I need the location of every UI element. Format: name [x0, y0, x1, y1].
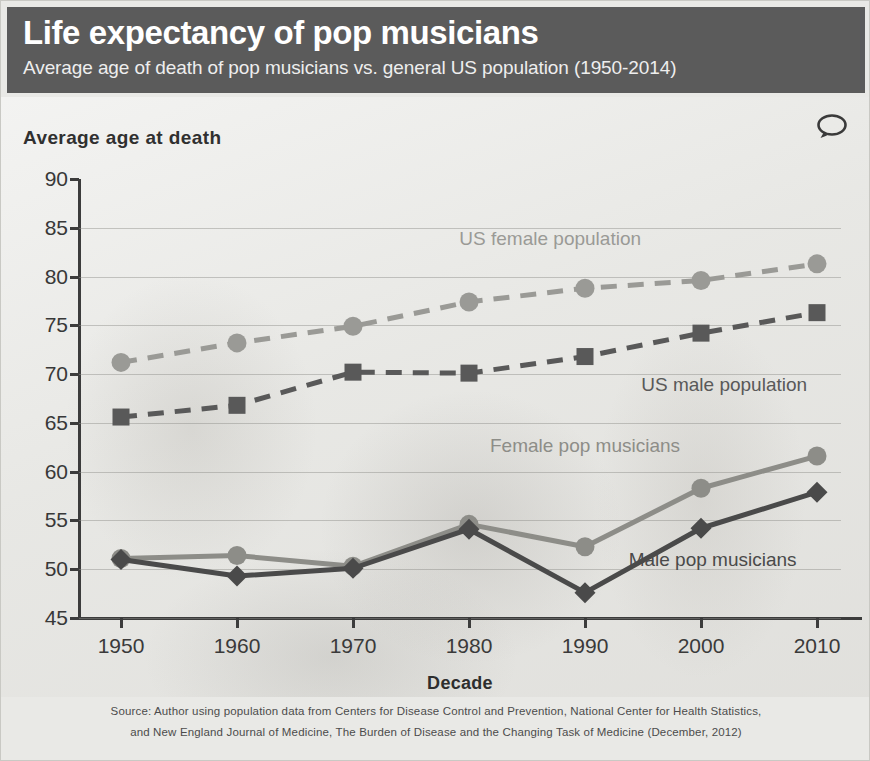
x-tick-label: 2000 [678, 634, 725, 658]
circle-marker [808, 447, 827, 466]
header-banner: Life expectancy of pop musicians Average… [7, 7, 865, 93]
square-marker [693, 325, 710, 342]
y-tick-label: 80 [45, 265, 68, 289]
x-tick-mark [584, 618, 587, 628]
y-tick-label: 85 [45, 216, 68, 240]
x-tick-label: 1970 [330, 634, 377, 658]
diamond-marker [575, 582, 596, 603]
x-tick-mark [700, 618, 703, 628]
circle-marker [344, 317, 363, 336]
square-marker [577, 348, 594, 365]
source-note: Source: Author using population data fro… [1, 701, 870, 743]
y-tick-mark [70, 617, 79, 620]
x-tick-label: 2010 [794, 634, 841, 658]
y-axis-label: Average age at death [23, 127, 221, 149]
circle-marker [692, 479, 711, 498]
series-us-male-population [113, 304, 826, 425]
chart-infographic: Life expectancy of pop musicians Average… [0, 0, 870, 761]
speech-bubble-icon[interactable] [815, 113, 849, 139]
page-subtitle: Average age of death of pop musicians vs… [23, 53, 849, 83]
gridline [79, 618, 841, 619]
circle-marker [576, 537, 595, 556]
series-line [121, 264, 817, 363]
y-tick-label: 75 [45, 313, 68, 337]
circle-marker [460, 292, 479, 311]
x-tick-label: 1980 [446, 634, 493, 658]
source-line-2: and New England Journal of Medicine, The… [19, 722, 853, 743]
plot-region: 45505560657075808590 1950196019701980199… [79, 179, 841, 618]
diamond-marker [111, 549, 132, 570]
y-tick-mark [70, 471, 79, 474]
y-tick-mark [70, 178, 79, 181]
y-tick-label: 70 [45, 362, 68, 386]
y-tick-mark [70, 519, 79, 522]
x-tick-label: 1950 [98, 634, 145, 658]
square-marker [809, 304, 826, 321]
circle-marker [576, 279, 595, 298]
series-label: Female pop musicians [490, 435, 680, 457]
circle-marker [112, 353, 131, 372]
circle-marker [808, 254, 827, 273]
x-tick-mark [120, 618, 123, 628]
y-tick-label: 55 [45, 508, 68, 532]
y-tick-mark [70, 373, 79, 376]
y-tick-mark [70, 324, 79, 327]
series-label: US male population [641, 374, 807, 396]
diamond-marker [227, 566, 248, 587]
y-tick-mark [70, 276, 79, 279]
x-tick-mark [468, 618, 471, 628]
series-label: US female population [459, 228, 641, 250]
chart-area: Average age at death 4550556065707580859… [1, 97, 870, 697]
square-marker [461, 365, 478, 382]
x-axis-label: Decade [79, 673, 841, 694]
square-marker [113, 409, 130, 426]
y-tick-mark [70, 568, 79, 571]
y-tick-label: 45 [45, 606, 68, 630]
x-tick-mark [352, 618, 355, 628]
y-tick-mark [70, 422, 79, 425]
square-marker [229, 397, 246, 414]
series-us-female-population [112, 254, 827, 372]
y-tick-label: 50 [45, 557, 68, 581]
diamond-marker [691, 518, 712, 539]
x-tick-mark [236, 618, 239, 628]
x-tick-label: 1960 [214, 634, 261, 658]
diamond-marker [807, 482, 828, 503]
circle-marker [228, 333, 247, 352]
x-tick-label: 1990 [562, 634, 609, 658]
series-male-pop-musicians [111, 482, 828, 603]
y-tick-label: 90 [45, 167, 68, 191]
source-line-1: Source: Author using population data fro… [19, 701, 853, 722]
y-tick-mark [70, 227, 79, 230]
y-tick-label: 60 [45, 460, 68, 484]
series-label: Male pop musicians [629, 549, 797, 571]
y-tick-label: 65 [45, 411, 68, 435]
square-marker [345, 364, 362, 381]
circle-marker [692, 271, 711, 290]
x-tick-mark [816, 618, 819, 628]
circle-marker [228, 546, 247, 565]
page-title: Life expectancy of pop musicians [23, 13, 849, 53]
series-line [121, 492, 817, 592]
